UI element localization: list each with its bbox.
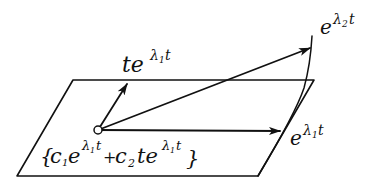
label-span-set: { c 1 e λ 1 t + c 2 te λ 1 t } [40, 138, 199, 170]
svg-text:te: te [137, 144, 158, 168]
svg-text:2: 2 [341, 19, 348, 29]
svg-text:λ: λ [81, 138, 90, 153]
svg-text:λ: λ [332, 11, 342, 27]
svg-text:e: e [68, 144, 80, 168]
eigenvector-plane-diagram: te λ 1 t e λ 2 t e λ 1 t { c 1 e λ 1 t +… [0, 0, 387, 189]
svg-text:t: t [176, 138, 182, 153]
label-e-lambda2-t: e λ 2 t [320, 11, 355, 39]
svg-text:λ: λ [149, 47, 159, 63]
svg-text:}: } [186, 146, 199, 170]
svg-text:2: 2 [127, 157, 135, 170]
svg-text:te: te [122, 52, 144, 77]
svg-text:e: e [320, 15, 332, 39]
origin-point [94, 126, 102, 134]
svg-text:1: 1 [90, 146, 95, 155]
vector-e-lambda1-t [98, 130, 280, 131]
svg-text:λ: λ [302, 122, 312, 138]
svg-text:e: e [290, 126, 302, 150]
svg-text:λ: λ [161, 138, 170, 153]
svg-text:1: 1 [170, 146, 175, 155]
svg-text:1: 1 [312, 130, 318, 140]
vector-te-lambda1-t [98, 84, 127, 130]
svg-text:t: t [96, 138, 102, 153]
svg-text:1: 1 [159, 55, 165, 65]
svg-text:c: c [50, 144, 62, 168]
label-te-lambda1-t: te λ 1 t [122, 47, 171, 77]
svg-text:t: t [349, 11, 355, 27]
svg-text:c: c [115, 144, 127, 168]
svg-text:t: t [318, 122, 324, 138]
svg-text:t: t [165, 47, 171, 63]
label-e-lambda1-t: e λ 1 t [290, 122, 324, 150]
